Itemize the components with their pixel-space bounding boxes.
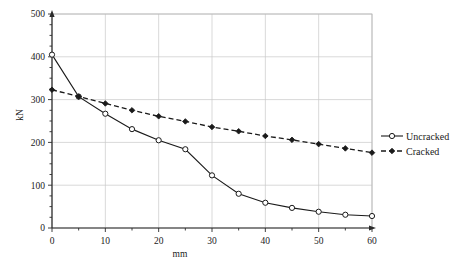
legend-marker-filled-diamond — [389, 148, 395, 154]
x-axis-tick-label: 30 — [207, 236, 217, 246]
line-chart: 01002003004005000102030405060mmkNUncrack… — [0, 0, 462, 269]
x-axis-tick-label: 20 — [154, 236, 164, 246]
y-axis-tick-label: 100 — [31, 181, 46, 191]
y-axis-tick-label: 200 — [31, 138, 46, 148]
data-point-uncracked — [289, 205, 294, 210]
data-point-uncracked — [343, 212, 348, 217]
legend-item-uncracked[interactable]: Uncracked — [381, 131, 449, 142]
legend-label-uncracked: Uncracked — [406, 131, 449, 142]
data-point-uncracked — [209, 173, 214, 178]
data-point-uncracked — [316, 209, 321, 214]
y-axis-arrowhead — [49, 10, 54, 17]
y-axis-title: kN — [15, 109, 25, 121]
y-axis-tick-label: 300 — [31, 95, 46, 105]
x-axis-tick-label: 50 — [314, 236, 324, 246]
y-axis-tick-label: 500 — [31, 9, 46, 19]
chart-container: 01002003004005000102030405060mmkNUncrack… — [0, 0, 462, 269]
legend-marker-open-circle — [389, 133, 394, 138]
data-point-uncracked — [156, 138, 161, 143]
data-point-uncracked — [263, 200, 268, 205]
data-point-uncracked — [103, 111, 108, 116]
legend-item-cracked[interactable]: Cracked — [381, 146, 439, 157]
x-axis-title: mm — [173, 249, 188, 259]
data-point-uncracked — [369, 213, 374, 218]
data-point-uncracked — [236, 191, 241, 196]
x-axis-tick-label: 0 — [50, 236, 55, 246]
data-point-uncracked — [183, 147, 188, 152]
x-axis-tick-label: 60 — [367, 236, 377, 246]
data-point-uncracked — [49, 52, 54, 57]
y-axis-tick-label: 0 — [40, 223, 45, 233]
data-point-uncracked — [129, 127, 134, 132]
x-axis-tick-label: 40 — [261, 236, 271, 246]
x-axis-tick-label: 10 — [101, 236, 111, 246]
legend-label-cracked: Cracked — [406, 146, 439, 157]
y-axis-tick-label: 400 — [31, 52, 46, 62]
x-axis-arrowhead — [369, 225, 376, 230]
